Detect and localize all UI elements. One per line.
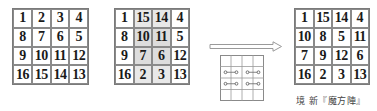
square-cell: 9 <box>314 47 333 66</box>
square-cell: 11 <box>152 28 171 47</box>
square-cell: 14 <box>152 9 171 28</box>
square-cell: 13 <box>171 65 190 84</box>
square-cell: 16 <box>13 65 32 84</box>
square-cell: 14 <box>332 9 351 28</box>
hollow-right-arrow-icon <box>209 41 283 52</box>
square-cell: 15 <box>314 9 333 28</box>
swap-diagram <box>220 55 264 101</box>
square-cell: 15 <box>134 9 153 28</box>
square-cell: 13 <box>351 65 370 84</box>
square-cell: 10 <box>295 28 314 47</box>
square-cell: 13 <box>69 65 88 84</box>
square-cell: 6 <box>51 28 70 47</box>
swap-node-icon <box>246 71 249 74</box>
swap-node-icon <box>224 82 227 85</box>
square-cell: 12 <box>171 47 190 66</box>
square-cell: 11 <box>351 28 370 47</box>
square-cell: 7 <box>134 47 153 66</box>
square-cell: 1 <box>115 9 134 28</box>
magic-square-result: 11514410851179126162313 <box>294 8 370 85</box>
swap-node-icon <box>246 82 249 85</box>
swap-node-icon <box>224 71 227 74</box>
square-cell: 2 <box>134 65 153 84</box>
square-cell: 14 <box>51 65 70 84</box>
square-cell: 6 <box>152 47 171 66</box>
square-cell: 1 <box>295 9 314 28</box>
swap-node-icon <box>257 82 260 85</box>
magic-square-swapped-columns: 11514481011597612162313 <box>114 8 190 85</box>
square-cell: 3 <box>332 65 351 84</box>
square-cell: 11 <box>51 47 70 66</box>
square-cell: 12 <box>69 47 88 66</box>
square-cell: 4 <box>351 9 370 28</box>
magic-square-original: 12348765910111216151413 <box>12 8 89 85</box>
swap-node-icon <box>235 71 238 74</box>
square-cell: 12 <box>332 47 351 66</box>
square-cell: 2 <box>314 65 333 84</box>
swap-node-icon <box>257 71 260 74</box>
square-cell: 1 <box>13 9 32 28</box>
square-cell: 6 <box>351 47 370 66</box>
square-cell: 7 <box>32 28 51 47</box>
square-cell: 16 <box>295 65 314 84</box>
square-cell: 16 <box>115 65 134 84</box>
square-cell: 3 <box>51 9 70 28</box>
square-cell: 5 <box>171 28 190 47</box>
square-cell: 9 <box>115 47 134 66</box>
swap-node-icon <box>235 82 238 85</box>
square-cell: 4 <box>171 9 190 28</box>
square-cell: 15 <box>32 65 51 84</box>
figure-caption: 境 新『魔方陣』 <box>296 94 366 107</box>
square-cell: 9 <box>13 47 32 66</box>
square-cell: 10 <box>134 28 153 47</box>
square-cell: 5 <box>69 28 88 47</box>
square-cell: 8 <box>314 28 333 47</box>
square-cell: 7 <box>295 47 314 66</box>
square-cell: 4 <box>69 9 88 28</box>
square-cell: 2 <box>32 9 51 28</box>
square-cell: 8 <box>13 28 32 47</box>
square-cell: 3 <box>152 65 171 84</box>
square-cell: 8 <box>115 28 134 47</box>
square-cell: 10 <box>32 47 51 66</box>
square-cell: 5 <box>332 28 351 47</box>
